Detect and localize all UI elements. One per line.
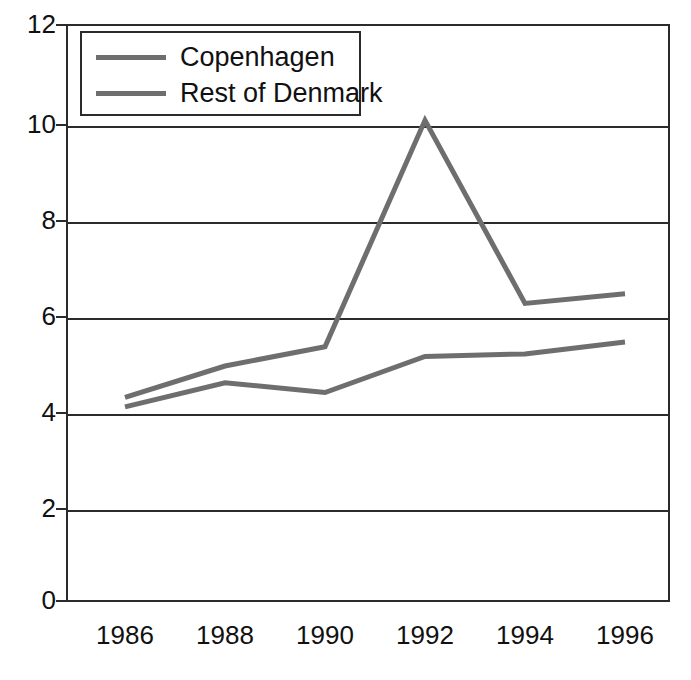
x-tick-label-1990: 1990	[296, 620, 354, 650]
y-tick-mark-4	[56, 412, 66, 414]
x-tick-label-1986: 1986	[96, 620, 154, 650]
legend-entry-rest-of-denmark: Rest of Denmark	[82, 75, 359, 111]
x-tick-label-1996: 1996	[596, 620, 654, 650]
gridline-10	[68, 126, 668, 128]
legend-entry-copenhagen: Copenhagen	[82, 39, 359, 75]
legend-label-rest-of-denmark: Rest of Denmark	[180, 79, 383, 107]
y-tick-mark-0	[56, 600, 66, 602]
legend-swatch-copenhagen	[96, 55, 166, 60]
y-tick-label-0: 0	[10, 587, 56, 613]
y-tick-label-12: 12	[10, 11, 56, 37]
y-tick-label-2: 2	[10, 495, 56, 521]
x-tick-label-1988: 1988	[196, 620, 254, 650]
y-tick-label-6: 6	[10, 303, 56, 329]
legend: Copenhagen Rest of Denmark	[80, 31, 361, 116]
y-tick-mark-2	[56, 508, 66, 510]
gridline-8	[68, 222, 668, 224]
y-tick-mark-6	[56, 316, 66, 318]
x-tick-label-1992: 1992	[396, 620, 454, 650]
gridline-6	[68, 318, 668, 320]
y-tick-mark-8	[56, 220, 66, 222]
y-tick-label-10: 10	[10, 111, 56, 137]
y-tick-mark-10	[56, 124, 66, 126]
y-tick-label-8: 8	[10, 207, 56, 233]
line-chart-figure: 12 10 8 6 4 2 0 1986 1988 1990 1992 1994…	[0, 0, 691, 680]
gridline-4	[68, 414, 668, 416]
y-tick-label-4: 4	[10, 399, 56, 425]
x-tick-label-1994: 1994	[496, 620, 554, 650]
gridline-2	[68, 510, 668, 512]
y-tick-mark-12	[56, 24, 66, 26]
legend-label-copenhagen: Copenhagen	[180, 43, 335, 71]
legend-swatch-rest-of-denmark	[96, 91, 166, 96]
y-axis-labels: 12 10 8 6 4 2 0	[0, 0, 56, 680]
